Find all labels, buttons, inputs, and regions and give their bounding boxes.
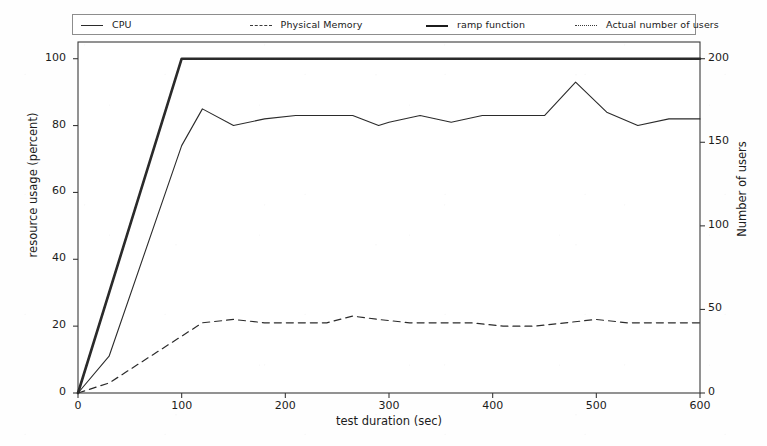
x-tick-label: 100 (162, 399, 202, 412)
x-axis-label: test duration (sec) (78, 414, 700, 428)
x-tick-label: 0 (58, 399, 98, 412)
y-tick-label-left: 40 (26, 251, 66, 264)
x-tick-label: 200 (265, 399, 305, 412)
chart-figure: CPU Physical Memory ramp function Actual… (0, 0, 767, 446)
plot-area (0, 0, 767, 446)
y-tick-label-right: 100 (708, 218, 748, 231)
y-tick-label-right: 150 (708, 134, 748, 147)
y-tick-label-left: 100 (26, 51, 66, 64)
y-tick-label-left: 0 (26, 385, 66, 398)
y-tick-label-left: 80 (26, 118, 66, 131)
y-tick-label-right: 0 (708, 385, 748, 398)
x-tick-label: 500 (576, 399, 616, 412)
x-tick-label: 600 (680, 399, 720, 412)
y-axis-label-right: Number of users (735, 89, 749, 289)
y-tick-label-left: 60 (26, 184, 66, 197)
x-tick-label: 400 (473, 399, 513, 412)
y-tick-label-right: 50 (708, 301, 748, 314)
y-tick-label-left: 20 (26, 318, 66, 331)
x-tick-label: 300 (369, 399, 409, 412)
y-tick-label-right: 200 (708, 51, 748, 64)
